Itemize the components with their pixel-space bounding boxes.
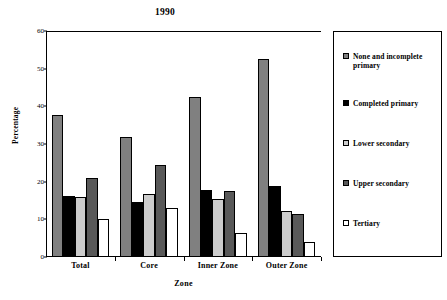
legend-swatch-icon [343,140,349,146]
y-axis-tick-label: 60 [37,27,44,35]
legend-item[interactable]: Lower secondary [343,139,439,148]
bar [224,191,236,257]
bar [201,190,213,257]
legend-item[interactable]: Completed primary [343,99,439,108]
bar [258,59,270,258]
x-axis-tick-label: Core [140,261,158,270]
chart-title: 1990 [0,7,330,17]
bar [143,194,155,257]
y-axis-tick-label: 20 [37,178,44,186]
legend-item[interactable]: Upper secondary [343,179,439,188]
bar [269,186,281,257]
y-axis-tick-label: 50 [37,65,44,73]
legend-label: Completed primary [353,99,418,108]
x-axis-tick-mark [184,257,185,261]
y-axis-tick-label: 10 [37,215,44,223]
bar [86,178,98,257]
bars-layer [46,31,321,257]
x-axis-tick-label: Inner Zone [198,261,238,270]
bar [98,219,110,257]
chart-legend: None and incomplete primaryCompleted pri… [333,31,442,257]
bar [304,242,316,257]
legend-swatch-icon [343,53,349,59]
y-axis-tick-label: 40 [37,102,44,110]
x-axis-tick-mark [115,257,116,261]
bar [155,165,167,257]
bar [120,137,132,257]
bar [75,197,87,257]
y-axis-title: Percentage [11,107,20,144]
legend-item[interactable]: None and incomplete primary [343,52,439,70]
legend-label: Lower secondary [353,139,410,148]
legend-swatch-icon [343,100,349,106]
y-axis-tick-label: 30 [37,140,44,148]
bar [63,196,75,257]
x-axis-tick-label: Outer Zone [266,261,308,270]
legend-label: Tertiary [353,219,380,228]
bar [52,115,64,257]
bar [212,199,224,257]
chart-figure: 1990 Percentage 0102030405060 TotalCoreI… [0,0,447,300]
legend-label: None and incomplete primary [353,52,439,70]
x-axis-tick-label: Total [71,261,90,270]
bar [281,211,293,257]
bar [132,202,144,257]
x-axis-tick-mark [321,257,322,261]
bar [292,214,304,257]
legend-swatch-icon [343,220,349,226]
bar [235,233,247,257]
legend-item[interactable]: Tertiary [343,219,439,228]
bar [166,208,178,257]
bar [189,97,201,257]
legend-label: Upper secondary [353,179,409,188]
x-axis-tick-mark [252,257,253,261]
legend-swatch-icon [343,180,349,186]
x-axis-title: Zone [46,279,321,288]
